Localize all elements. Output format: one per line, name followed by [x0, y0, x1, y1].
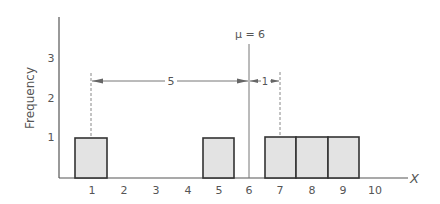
bar-x7	[265, 137, 296, 178]
y-tick-1: 1	[48, 131, 55, 144]
y-tick-3: 3	[48, 52, 55, 65]
x-tick-3: 3	[153, 184, 160, 197]
mean-label: μ = 6	[235, 28, 265, 41]
x-tick-4: 4	[185, 184, 192, 197]
bar-x9	[328, 137, 359, 178]
deviation-label-1: 1	[262, 76, 268, 87]
y-tick-2: 2	[48, 92, 55, 105]
deviation-label-5: 5	[168, 75, 175, 88]
x-tick-1: 1	[89, 184, 96, 197]
x-tick-2: 2	[121, 184, 128, 197]
x-tick-5: 5	[216, 184, 223, 197]
x-tick-6: 6	[246, 184, 253, 197]
bar-x1	[75, 138, 107, 178]
bar-x8	[296, 137, 328, 178]
x-tick-8: 8	[309, 184, 316, 197]
y-axis-label: Frequency	[23, 67, 37, 129]
x-ticks: 1 2 3 4 5 6 7 8 9 10	[89, 184, 383, 197]
x-tick-7: 7	[277, 184, 284, 197]
bar-x5	[203, 138, 234, 178]
bars	[75, 137, 359, 178]
x-tick-9: 9	[340, 184, 347, 197]
x-tick-10: 10	[368, 184, 382, 197]
frequency-histogram: X Frequency 1 2 3 1 2 3 4 5 6 7 8 9 10 μ…	[0, 0, 440, 204]
x-axis-label: X	[409, 171, 420, 186]
